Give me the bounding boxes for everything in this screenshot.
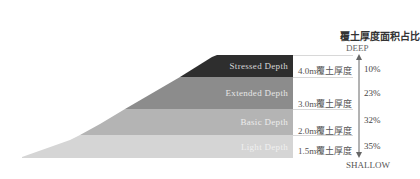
soil-depth-diagram: Stressed Depth Extended Depth Basic Dept… — [0, 0, 420, 179]
layer-label-extended: Extended Depth — [200, 88, 288, 98]
chart-title: 覆土厚度面积占比 — [340, 28, 420, 43]
arrow-up-icon — [356, 54, 362, 60]
shallow-label: SHALLOW — [346, 160, 390, 170]
percent-basic: 32% — [364, 115, 381, 125]
percent-extended: 23% — [364, 88, 381, 98]
layer-label-stressed: Stressed Depth — [200, 61, 288, 71]
divider-line — [293, 55, 353, 56]
arrow-down-icon — [356, 152, 362, 158]
deep-label: DEEP — [346, 43, 369, 53]
divider-line — [293, 77, 353, 78]
thickness-label-light: 1.5m覆土厚度 — [298, 144, 352, 157]
percent-light: 35% — [364, 141, 381, 151]
layer-label-light: Light Depth — [200, 142, 288, 152]
percent-stressed: 10% — [364, 64, 381, 74]
thickness-label-stressed: 4.0m覆土厚度 — [298, 64, 352, 77]
layer-label-basic: Basic Depth — [200, 117, 288, 127]
thickness-label-basic: 2.0m覆土厚度 — [298, 124, 352, 137]
thickness-label-extended: 3.0m覆土厚度 — [298, 97, 352, 110]
